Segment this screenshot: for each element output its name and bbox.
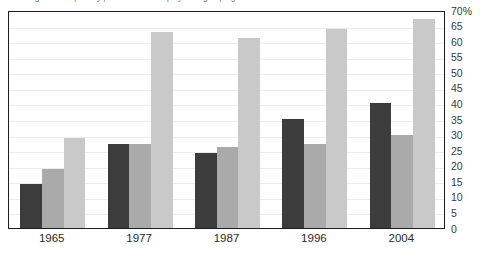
bar[interactable] — [64, 138, 86, 228]
bar[interactable] — [304, 144, 326, 228]
bar[interactable] — [391, 135, 413, 228]
y-axis-tick-label: 45 — [451, 83, 463, 94]
x-axis-tick-label: 1987 — [214, 232, 240, 244]
plot-area — [8, 11, 445, 229]
chart-title: Percentage of MPs paid by private sector… — [2, 0, 432, 4]
y-axis-tick-label: 20 — [451, 161, 463, 172]
y-axis-tick-label: 15 — [451, 177, 463, 188]
bar[interactable] — [282, 119, 304, 228]
bar-group — [370, 12, 435, 228]
bar-group — [108, 12, 173, 228]
x-axis-tick-label: 1996 — [301, 232, 327, 244]
x-axis-tick-label: 2004 — [389, 232, 415, 244]
bar[interactable] — [42, 169, 64, 228]
y-axis-tick-label: 40 — [451, 99, 463, 110]
bar[interactable] — [129, 144, 151, 228]
y-axis-tick-label: 70% — [451, 6, 472, 17]
y-axis-tick-label: 60 — [451, 37, 463, 48]
y-axis: 70%65605550454035302520151050 — [451, 0, 495, 257]
y-axis-tick-label: 65 — [451, 21, 463, 32]
y-axis-tick-label: 0 — [451, 224, 457, 235]
bars-layer — [9, 12, 444, 228]
x-axis: 19651977198719962004 — [8, 232, 445, 252]
bar-group — [20, 12, 85, 228]
chart-container: Percentage of MPs paid by private sector… — [0, 0, 495, 257]
y-axis-tick-label: 5 — [451, 208, 457, 219]
bar[interactable] — [413, 19, 435, 228]
y-axis-tick-label: 35 — [451, 115, 463, 126]
bar-group — [195, 12, 260, 228]
x-axis-tick-label: 1977 — [126, 232, 152, 244]
bar[interactable] — [195, 153, 217, 228]
bar[interactable] — [238, 38, 260, 228]
y-axis-tick-label: 50 — [451, 68, 463, 79]
bar[interactable] — [20, 184, 42, 228]
bar-group — [282, 12, 347, 228]
bar[interactable] — [108, 144, 130, 228]
y-axis-tick-label: 55 — [451, 52, 463, 63]
y-axis-tick-label: 10 — [451, 192, 463, 203]
y-axis-tick-label: 25 — [451, 146, 463, 157]
bar[interactable] — [370, 103, 392, 228]
y-axis-tick-label: 30 — [451, 130, 463, 141]
bar[interactable] — [151, 32, 173, 228]
bar[interactable] — [217, 147, 239, 228]
x-axis-tick-label: 1965 — [39, 232, 65, 244]
bar[interactable] — [326, 29, 348, 228]
